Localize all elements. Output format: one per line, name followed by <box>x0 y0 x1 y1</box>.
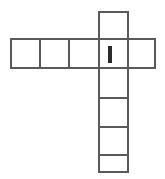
figure-canvas <box>0 0 165 179</box>
net-square-column-1 <box>99 68 128 98</box>
net-square-center <box>99 39 128 68</box>
net-square-row-2 <box>40 39 69 68</box>
net-square-row-1 <box>11 39 40 68</box>
net-square-top <box>99 12 128 40</box>
cube-net-figure <box>0 0 165 179</box>
tally-mark-icon <box>108 46 112 63</box>
net-square-row-3 <box>69 39 99 68</box>
net-square-row-5 <box>128 39 155 68</box>
net-square-column-3 <box>99 127 128 155</box>
net-square-column-2 <box>99 98 128 127</box>
net-square-column-4 <box>99 155 128 172</box>
